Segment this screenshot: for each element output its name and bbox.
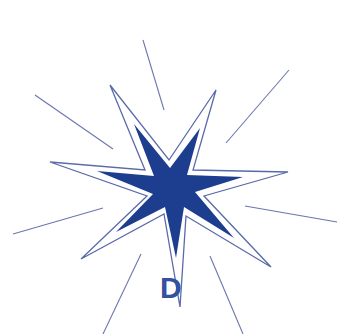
ray-line (245, 206, 337, 222)
ray-line (35, 95, 113, 149)
star-graphic: D (0, 0, 361, 334)
ray-line (226, 70, 289, 143)
ray-line (210, 256, 243, 334)
ray-line (143, 40, 164, 110)
ray-line (13, 208, 103, 234)
letter-label: D (160, 273, 182, 303)
ray-line (103, 254, 141, 334)
